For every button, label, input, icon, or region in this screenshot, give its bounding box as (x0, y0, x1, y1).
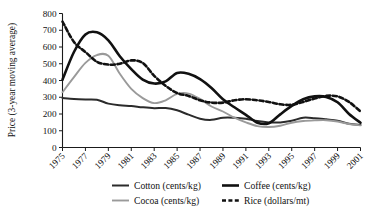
x-tick-label: 2001 (345, 151, 365, 171)
y-tick-label: 400 (43, 76, 57, 86)
y-axis-ticks: 0100200300400500600700800 (43, 9, 63, 153)
y-tick-label: 800 (43, 9, 57, 19)
y-tick-label: 0 (52, 143, 57, 153)
series-lines (63, 22, 361, 128)
x-tick-label: 1975 (47, 151, 67, 171)
x-tick-label: 1991 (230, 151, 250, 171)
legend-label-coffee: Coffee (cents/kg) (244, 180, 311, 192)
x-tick-label: 1997 (299, 151, 319, 171)
x-tick-label: 1981 (116, 151, 136, 171)
x-tick-label: 1985 (161, 151, 181, 171)
x-tick-label: 1995 (276, 151, 296, 171)
x-tick-label: 1999 (322, 151, 342, 171)
legend-label-cocoa: Cocoa (cents/kg) (134, 195, 199, 207)
x-tick-label: 1977 (70, 151, 90, 171)
x-axis-ticks: 1975197719791981198319851987198919911993… (47, 148, 365, 171)
chart-legend: Cotton (cents/kg)Coffee (cents/kg)Cocoa … (112, 180, 311, 207)
x-tick-label: 1983 (139, 151, 159, 171)
line-chart: Price (3-year moving average) 0100200300… (0, 0, 376, 218)
y-tick-label: 700 (43, 25, 57, 35)
x-tick-label: 1979 (93, 151, 113, 171)
y-tick-label: 300 (43, 92, 57, 102)
y-tick-label: 100 (43, 126, 57, 136)
y-tick-label: 200 (43, 109, 57, 119)
x-tick-label: 1993 (253, 151, 273, 171)
series-line-coffee (63, 32, 361, 124)
y-axis-title: Price (3-year moving average) (7, 23, 18, 137)
x-tick-label: 1989 (207, 151, 227, 171)
legend-label-rice: Rice (dollars/mt) (244, 195, 309, 207)
series-line-rice (63, 22, 361, 112)
x-tick-label: 1987 (184, 151, 204, 171)
chart-figure: Price (3-year moving average) 0100200300… (0, 0, 376, 218)
y-tick-label: 500 (43, 59, 57, 69)
y-tick-label: 600 (43, 42, 57, 52)
legend-label-cotton: Cotton (cents/kg) (134, 180, 201, 192)
